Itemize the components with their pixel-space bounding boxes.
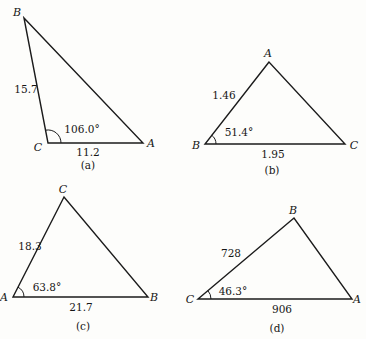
- triangles-figure: B C A 15.7 106.0° 11.2 (a) A B C 1.46 51…: [0, 0, 366, 339]
- triangle-b-bottom-right-vertex-label: C: [350, 139, 359, 152]
- triangle-d-bottom-left-vertex-label: C: [186, 293, 195, 306]
- triangle-d: B C A 728 46.3° 906 (d): [186, 204, 361, 334]
- triangle-b-apex-vertex-label: A: [263, 47, 272, 60]
- triangle-c: C A B 18.3 63.8° 21.7 (c): [0, 183, 158, 332]
- triangle-d-angle-value: 46.3°: [219, 285, 248, 297]
- triangle-d-apex-vertex-label: B: [288, 204, 297, 217]
- triangle-d-bottom-side-value: 906: [272, 303, 292, 315]
- triangle-b-slant-side-value: 1.46: [212, 89, 236, 101]
- triangle-c-bottom-side-value: 21.7: [69, 301, 92, 313]
- triangle-a-apex-vertex-label: B: [12, 6, 21, 19]
- triangle-b-angle-arc: [212, 135, 216, 144]
- triangle-c-bottom-left-vertex-label: A: [0, 291, 8, 304]
- triangle-b-angle-value: 51.4°: [225, 126, 254, 138]
- triangle-a-bottom-side-value: 11.2: [76, 146, 99, 158]
- triangle-d-caption: (d): [270, 322, 285, 334]
- triangle-a-bottom-right-vertex-label: A: [146, 137, 155, 150]
- triangle-a-slant-side-value: 15.7: [14, 83, 37, 95]
- triangle-c-slant-side-value: 18.3: [18, 240, 41, 252]
- triangle-a-bottom-left-vertex-label: C: [34, 141, 43, 154]
- triangle-a-angle-value: 106.0°: [64, 123, 99, 135]
- triangle-c-apex-vertex-label: C: [59, 183, 68, 196]
- triangle-b-caption: (b): [265, 164, 280, 176]
- triangle-d-angle-arc: [208, 291, 211, 299]
- triangle-c-caption: (c): [76, 320, 90, 332]
- triangle-d-bottom-right-vertex-label: A: [352, 293, 361, 306]
- triangle-a-caption: (a): [81, 159, 95, 171]
- triangle-c-angle-value: 63.8°: [33, 281, 62, 293]
- triangle-a: B C A 15.7 106.0° 11.2 (a): [12, 6, 155, 171]
- triangle-b-bottom-side-value: 1.95: [261, 148, 284, 160]
- triangle-b: A B C 1.46 51.4° 1.95 (b): [191, 47, 359, 176]
- triangle-c-angle-arc: [18, 287, 24, 297]
- triangle-d-slant-side-value: 728: [221, 247, 241, 259]
- triangle-c-bottom-right-vertex-label: B: [149, 291, 158, 304]
- triangle-b-bottom-left-vertex-label: B: [191, 139, 200, 152]
